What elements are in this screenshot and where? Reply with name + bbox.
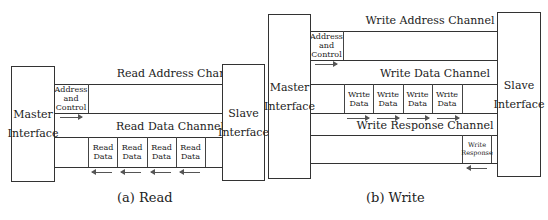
read-address-cell-line3: Control	[56, 103, 87, 112]
write-data-arrow-right-icon	[377, 118, 399, 119]
cell-line1: Write	[436, 90, 458, 99]
write-data-channel-bottom-line	[310, 113, 498, 114]
write-response-cell: Write Response	[462, 135, 492, 163]
cell-line1: Read	[122, 143, 143, 152]
cell-line1: Write	[348, 90, 370, 99]
read-address-arrow-right-icon	[60, 117, 82, 118]
read-data-channel-bottom-line	[54, 167, 222, 168]
cell-line2: Data	[93, 152, 112, 161]
write-address-cell-line2: and	[319, 41, 334, 50]
cell-line1: Read	[93, 143, 114, 152]
cell-line2: Data	[378, 99, 397, 108]
write-data-cell: Write Data	[403, 84, 433, 113]
box-line1: Slave	[504, 76, 534, 95]
read-data-cell: Read Data	[176, 137, 206, 167]
box-line2: Interface	[264, 97, 315, 116]
write-data-arrow-right-icon	[407, 118, 429, 119]
write-data-arrow-right-icon	[347, 118, 369, 119]
read-data-cell: Read Data	[147, 137, 177, 167]
cell-line2: Data	[122, 152, 141, 161]
write-data-cell: Write Data	[373, 84, 404, 113]
write-address-control-cell: Address and Control	[310, 31, 344, 60]
write-data-cell: Write Data	[344, 84, 374, 113]
read-master-interface-box: Master Interface	[11, 66, 55, 182]
write-data-channel-label: Write Data Channel	[355, 67, 515, 80]
read-data-arrow-left-icon	[180, 172, 200, 173]
write-response-channel-bottom-line	[310, 163, 498, 164]
box-line2: Interface	[218, 123, 269, 142]
write-slave-interface-box: Slave Interface	[497, 12, 541, 177]
box-line1: Slave	[228, 104, 258, 123]
read-address-cell-line1: Address	[55, 85, 88, 94]
cell-line2: Data	[408, 99, 427, 108]
cell-line1: Write	[406, 90, 428, 99]
read-address-control-cell: Address and Control	[54, 84, 89, 113]
box-line2: Interface	[494, 95, 545, 114]
write-address-channel-label: Write Address Channel	[340, 14, 520, 27]
cell-line2: Response	[461, 149, 493, 157]
cell-line2: Data	[152, 152, 171, 161]
write-caption: (b) Write	[366, 190, 425, 205]
box-line1: Master	[13, 105, 53, 124]
write-response-arrow-left-icon	[467, 168, 487, 169]
read-data-arrow-left-icon	[92, 172, 112, 173]
write-address-cell-line3: Control	[311, 50, 342, 59]
read-data-cell: Read Data	[117, 137, 148, 167]
read-data-arrow-left-icon	[151, 172, 171, 173]
cell-line2: Data	[437, 99, 456, 108]
write-address-arrow-right-icon	[315, 64, 337, 65]
write-data-arrow-right-icon	[437, 118, 459, 119]
cell-line1: Write	[377, 90, 399, 99]
cell-line1: Write	[468, 141, 486, 149]
box-line1: Master	[270, 78, 310, 97]
write-address-cell-line1: Address	[310, 32, 343, 41]
read-data-cell: Read Data	[88, 137, 118, 167]
read-caption: (a) Read	[117, 190, 173, 205]
cell-line2: Data	[181, 152, 200, 161]
box-line2: Interface	[8, 124, 59, 143]
cell-line2: Data	[349, 99, 368, 108]
cell-line1: Read	[151, 143, 172, 152]
read-slave-interface-box: Slave Interface	[222, 64, 265, 181]
write-data-cell: Write Data	[432, 84, 463, 113]
read-address-cell-line2: and	[63, 94, 78, 103]
write-address-channel-bottom-line	[310, 60, 498, 61]
read-data-arrow-left-icon	[121, 172, 141, 173]
cell-line1: Read	[180, 143, 201, 152]
write-master-interface-box: Master Interface	[268, 14, 311, 179]
